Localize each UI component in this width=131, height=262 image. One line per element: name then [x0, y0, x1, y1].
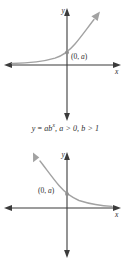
- equation-caption: y = abx, a > 0, b > 1: [0, 124, 131, 133]
- decay-curve: [33, 153, 112, 207]
- exponential-functions-figure: y x (0, a) y = abx, a > 0, b > 1 y: [0, 0, 131, 262]
- y-axis-label-growth: y: [61, 6, 66, 15]
- graph-exponential-decay: y x (0, a): [0, 142, 131, 262]
- graph-exponential-growth: y x (0, a): [0, 0, 131, 122]
- intercept-label-decay: (0, a): [38, 186, 55, 195]
- x-axis-label-decay: x: [114, 210, 119, 219]
- x-axis-label-growth: x: [114, 67, 119, 76]
- y-axis-label-decay: y: [61, 150, 66, 159]
- y-intercept-dot-growth: [65, 51, 69, 55]
- equation-condition-a: , a > 0: [55, 124, 77, 133]
- y-intercept-dot-decay: [65, 192, 69, 196]
- y-axis-decay: [64, 152, 70, 258]
- equation-equals: =: [35, 124, 44, 133]
- intercept-label-growth: (0, a): [71, 52, 88, 61]
- equation-condition-b: , b > 1: [77, 124, 99, 133]
